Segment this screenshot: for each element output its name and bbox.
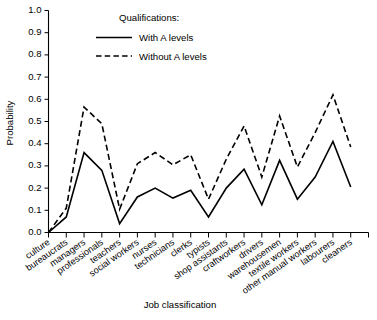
x-axis-tick-labels: culturebureaucratsmanagersprofessionalst… [23, 237, 354, 296]
y-axis-tick-label: 0.6 [28, 93, 41, 104]
y-axis-tick-labels: 0.00.10.20.30.40.50.60.70.80.91.0 [28, 4, 41, 237]
probability-by-job-chart: Probability 0.00.10.20.30.40.50.60.70.80… [0, 0, 377, 320]
y-axis-tick-label: 0.2 [28, 182, 41, 193]
y-axis-tick-label: 0.0 [28, 226, 41, 237]
chart-canvas: Probability 0.00.10.20.30.40.50.60.70.80… [0, 0, 377, 320]
y-axis-tick-label: 0.9 [28, 26, 41, 37]
chart-legend: Qualifications: With A levels Without A … [96, 12, 207, 62]
legend-title: Qualifications: [119, 12, 179, 23]
y-axis-tick-label: 0.5 [28, 115, 41, 126]
legend-label-without-a-levels: Without A levels [139, 51, 207, 62]
x-axis-title: Job classification [144, 299, 217, 310]
y-axis-tick-label: 0.4 [28, 137, 41, 148]
series-with-a-levels [49, 141, 351, 232]
y-axis-tick-label: 0.1 [28, 204, 41, 215]
x-axis-ticks [49, 233, 369, 238]
y-axis-tick-label: 0.3 [28, 159, 41, 170]
y-axis-ticks [45, 11, 49, 233]
y-axis-tick-label: 0.7 [28, 71, 41, 82]
y-axis-tick-label: 0.8 [28, 48, 41, 59]
y-axis-title: Probability [4, 100, 15, 145]
y-axis-tick-label: 1.0 [28, 4, 41, 15]
series-without-a-levels [49, 95, 351, 233]
legend-label-with-a-levels: With A levels [139, 32, 194, 43]
